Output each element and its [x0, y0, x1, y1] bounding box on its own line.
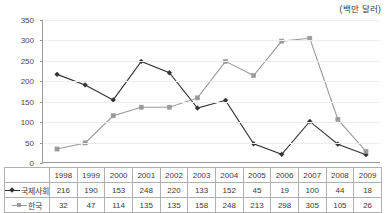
data-point — [55, 147, 59, 151]
table-body: 국제사회21619015324822013315245191004418한국32… — [5, 183, 382, 213]
table-column-header: 2009 — [354, 168, 382, 183]
table-cell: 133 — [188, 183, 216, 198]
table-cell: 135 — [160, 198, 188, 213]
gridline — [43, 20, 380, 21]
gridline — [43, 61, 380, 62]
y-axis: 350300250200150100500 — [0, 16, 40, 168]
series-2 — [55, 36, 368, 153]
table-column-header: 1999 — [77, 168, 105, 183]
table-cell: 135 — [132, 198, 160, 213]
gridline — [43, 40, 380, 41]
table-cell: 153 — [105, 183, 133, 198]
y-tick-mark — [40, 20, 43, 21]
diamond-marker-icon — [5, 186, 20, 194]
square-marker-icon — [12, 201, 27, 209]
y-tick-label: 50 — [25, 138, 34, 147]
y-tick-mark — [40, 122, 43, 123]
table-column-header: 2000 — [105, 168, 133, 183]
table-cell: 213 — [243, 198, 271, 213]
data-table: 1998199920002001200220032004200520062007… — [4, 167, 382, 213]
data-point — [139, 105, 143, 109]
table-cell: 100 — [298, 183, 326, 198]
data-point — [252, 73, 256, 77]
data-point — [364, 149, 368, 153]
table-cell: 305 — [298, 198, 326, 213]
table-cell: 45 — [243, 183, 271, 198]
y-tick-label: 250 — [21, 56, 34, 65]
table-cell: 44 — [326, 183, 354, 198]
table-column-header: 2004 — [215, 168, 243, 183]
table-cell: 190 — [77, 183, 105, 198]
table-cell: 158 — [188, 198, 216, 213]
legend-marker — [10, 187, 16, 193]
table-column-header: 2006 — [271, 168, 299, 183]
legend-marker — [17, 203, 21, 207]
table-row: 한국324711413513515824821329830510526 — [5, 198, 382, 213]
table-header-row: 1998199920002001200220032004200520062007… — [5, 168, 382, 183]
table-cell: 216 — [50, 183, 78, 198]
y-tick-mark — [40, 163, 43, 164]
table-cell: 248 — [215, 198, 243, 213]
table-column-header: 2002 — [160, 168, 188, 183]
line-chart: 350300250200150100500 — [0, 16, 387, 168]
plot-area — [42, 20, 380, 163]
y-tick-label: 300 — [21, 36, 34, 45]
gridline — [43, 102, 380, 103]
table-column-header: 2001 — [132, 168, 160, 183]
table-cell: 105 — [326, 198, 354, 213]
y-tick-label: 200 — [21, 77, 34, 86]
data-point — [167, 105, 171, 109]
y-tick-mark — [40, 40, 43, 41]
data-table-container: 1998199920002001200220032004200520062007… — [4, 167, 382, 213]
table-cell: 298 — [271, 198, 299, 213]
gridline — [43, 122, 380, 123]
table-column-header: 2007 — [298, 168, 326, 183]
y-tick-mark — [40, 143, 43, 144]
gridline — [43, 81, 380, 82]
y-tick-mark — [40, 81, 43, 82]
legend-label: 한국 — [28, 200, 42, 211]
table-cell: 47 — [77, 198, 105, 213]
gridline — [43, 143, 380, 144]
table-column-header: 2005 — [243, 168, 271, 183]
table-corner-cell — [5, 168, 50, 183]
legend-item-1: 국제사회 — [5, 183, 50, 198]
table-cell: 26 — [354, 198, 382, 213]
table-row: 국제사회21619015324822013315245191004418 — [5, 183, 382, 198]
data-point — [111, 114, 115, 118]
data-point — [83, 83, 88, 88]
y-tick-label: 100 — [21, 118, 34, 127]
table-cell: 32 — [50, 198, 78, 213]
unit-caption: (백만 달러) — [340, 2, 381, 14]
y-tick-mark — [40, 102, 43, 103]
table-column-header: 2003 — [188, 168, 216, 183]
chart-page: (백만 달러) 350300250200150100500 1998199920… — [0, 0, 387, 213]
data-point — [195, 96, 199, 100]
table-cell: 19 — [271, 183, 299, 198]
table-cell: 220 — [160, 183, 188, 198]
y-tick-label: 150 — [21, 97, 34, 106]
table-column-header: 1998 — [50, 168, 78, 183]
data-point — [55, 72, 60, 77]
table-cell: 152 — [215, 183, 243, 198]
table-cell: 248 — [132, 183, 160, 198]
table-cell: 114 — [105, 198, 133, 213]
data-point — [336, 117, 340, 121]
legend-label: 국제사회 — [21, 185, 48, 196]
y-tick-label: 350 — [21, 16, 34, 25]
legend-item-2: 한국 — [5, 198, 50, 213]
table-cell: 18 — [354, 183, 382, 198]
series-line — [57, 61, 366, 154]
table-column-header: 2008 — [326, 168, 354, 183]
y-tick-mark — [40, 61, 43, 62]
